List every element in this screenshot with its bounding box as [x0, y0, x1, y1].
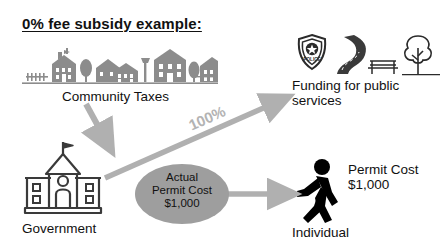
diagram-canvas: 0% fee subsidy example: — [0, 0, 448, 251]
actual-cost-line1: Actual — [166, 171, 198, 183]
actual-cost-line2: Permit Cost — [152, 184, 212, 196]
arrow-taxes-to-government — [86, 104, 110, 148]
actual-permit-cost-text: ActualPermit Cost$1,000 — [140, 171, 224, 210]
actual-cost-line3: $1,000 — [164, 197, 199, 209]
